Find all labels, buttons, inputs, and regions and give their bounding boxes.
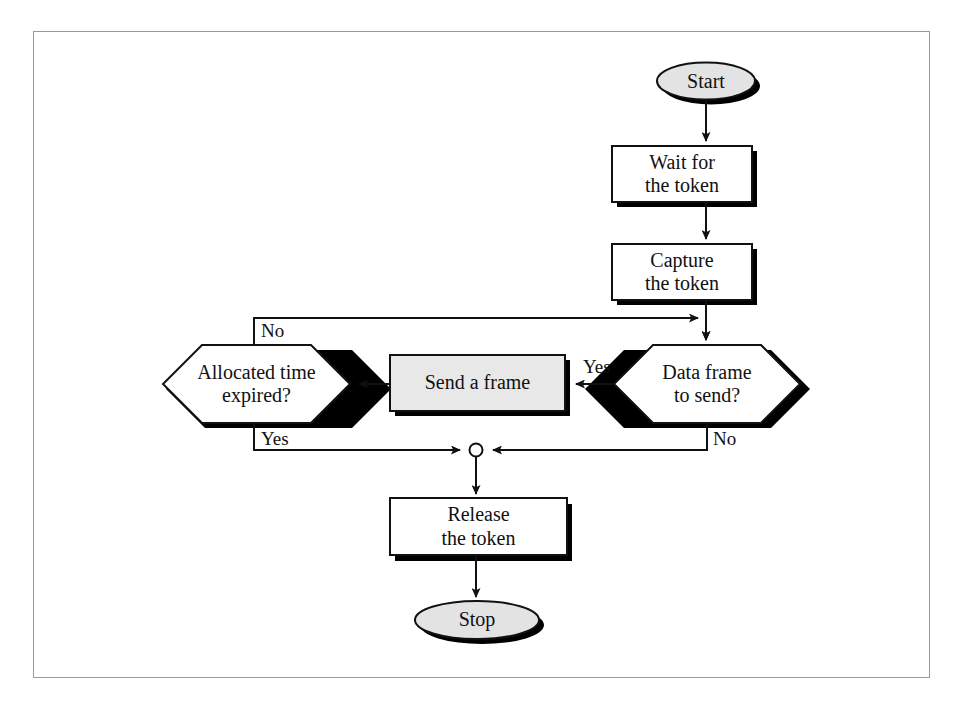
node-wait-for-the-token[interactable] <box>612 146 752 202</box>
figure-page: Start Wait for the token Capture the tok… <box>0 0 960 708</box>
node-start[interactable] <box>657 63 755 100</box>
node-merge-junction <box>470 444 483 457</box>
node-capture-the-token[interactable] <box>612 244 752 300</box>
node-data-frame-to-send[interactable] <box>614 345 800 423</box>
node-release-the-token[interactable] <box>390 498 567 555</box>
edge-expired-no-feedback <box>254 318 698 345</box>
node-send-a-frame[interactable] <box>390 355 565 411</box>
node-stop[interactable] <box>415 601 539 639</box>
flowchart-canvas <box>0 0 960 708</box>
node-shapes <box>163 63 800 640</box>
node-allocated-time-expired[interactable] <box>163 345 350 423</box>
